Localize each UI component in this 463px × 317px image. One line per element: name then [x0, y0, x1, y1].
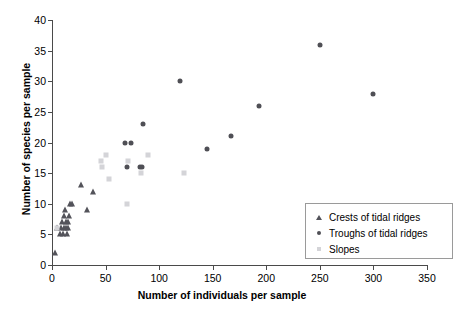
x-axis-title: Number of individuals per sample: [52, 289, 392, 301]
y-tick-label-0: 0: [40, 259, 46, 271]
scatter-plot-figure: Number of species per sample Number of i…: [0, 0, 463, 317]
circle-marker-icon: [313, 231, 325, 236]
y-axis-line: [52, 20, 53, 266]
data-point: [65, 219, 71, 225]
x-tick-300: [373, 266, 374, 270]
data-point: [78, 182, 84, 188]
legend-item-1[interactable]: Troughs of tidal ridges: [313, 225, 452, 241]
y-tick-label-15: 15: [34, 167, 46, 179]
square-marker-icon: [313, 247, 325, 252]
data-point: [138, 171, 143, 176]
data-point: [84, 206, 90, 212]
x-axis-line: [52, 265, 428, 266]
y-tick-label-5: 5: [40, 228, 46, 240]
data-point: [122, 140, 127, 145]
data-point: [371, 91, 376, 96]
x-tick-label-50: 50: [100, 272, 112, 284]
data-point: [64, 231, 70, 237]
x-tick-label-250: 250: [311, 272, 329, 284]
x-tick-350: [427, 266, 428, 270]
data-point: [55, 226, 60, 231]
data-point: [256, 103, 261, 108]
chart-legend: Crests of tidal ridgesTroughs of tidal r…: [305, 203, 453, 259]
y-axis-title: Number of species per sample: [20, 39, 32, 239]
y-tick-label-10: 10: [34, 198, 46, 210]
y-tick-30: [48, 81, 52, 82]
legend-item-label: Crests of tidal ridges: [329, 212, 420, 223]
x-tick-250: [320, 266, 321, 270]
y-tick-5: [48, 234, 52, 235]
x-tick-200: [266, 266, 267, 270]
x-tick-0: [52, 266, 53, 270]
y-tick-label-35: 35: [34, 45, 46, 57]
y-tick-25: [48, 112, 52, 113]
data-point: [103, 152, 108, 157]
data-point: [146, 152, 151, 157]
data-point: [129, 140, 134, 145]
legend-item-2[interactable]: Slopes: [313, 241, 452, 257]
data-point: [317, 42, 322, 47]
y-tick-40: [48, 20, 52, 21]
data-point: [62, 206, 68, 212]
y-tick-10: [48, 204, 52, 205]
y-tick-label-40: 40: [34, 14, 46, 26]
legend-item-label: Slopes: [329, 244, 360, 255]
legend-item-label: Troughs of tidal ridges: [329, 228, 428, 239]
x-tick-label-0: 0: [49, 272, 55, 284]
x-tick-100: [159, 266, 160, 270]
data-point: [177, 79, 182, 84]
y-tick-15: [48, 173, 52, 174]
triangle-marker-icon: [313, 215, 325, 220]
data-point: [228, 134, 233, 139]
data-point: [65, 225, 71, 231]
data-point: [181, 171, 186, 176]
legend-item-0[interactable]: Crests of tidal ridges: [313, 209, 452, 225]
y-tick-20: [48, 143, 52, 144]
data-point: [66, 212, 72, 218]
y-tick-label-30: 30: [34, 75, 46, 87]
y-tick-label-25: 25: [34, 106, 46, 118]
data-point: [106, 177, 111, 182]
data-point: [69, 200, 75, 206]
data-point: [100, 165, 105, 170]
x-tick-50: [106, 266, 107, 270]
data-point: [205, 146, 210, 151]
data-point: [126, 158, 131, 163]
x-tick-150: [213, 266, 214, 270]
x-tick-label-150: 150: [204, 272, 222, 284]
data-point: [99, 158, 104, 163]
x-tick-label-200: 200: [258, 272, 276, 284]
x-tick-label-100: 100: [150, 272, 168, 284]
data-point: [141, 122, 146, 127]
y-tick-35: [48, 51, 52, 52]
data-point: [90, 188, 96, 194]
x-tick-label-300: 300: [365, 272, 383, 284]
y-tick-label-20: 20: [34, 137, 46, 149]
data-point: [125, 165, 130, 170]
x-tick-label-350: 350: [418, 272, 436, 284]
data-point: [125, 201, 130, 206]
data-point: [52, 249, 58, 255]
data-point: [140, 165, 145, 170]
